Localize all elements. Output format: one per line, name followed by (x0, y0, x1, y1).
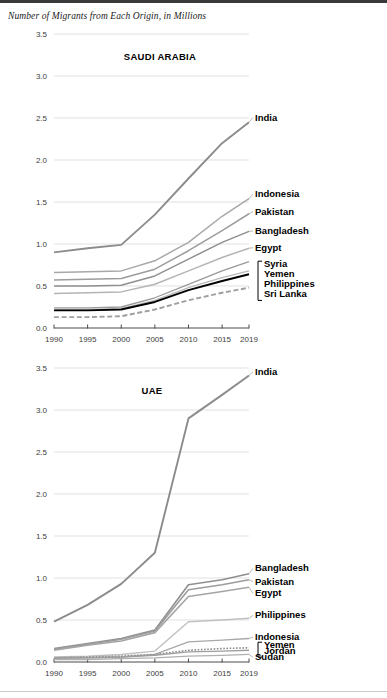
series-group (54, 376, 249, 660)
y-axis-tick-label: 2.5 (36, 448, 48, 457)
series-label-pakistan: Pakistan (255, 576, 294, 587)
y-axis-tick-label: 1.0 (36, 240, 48, 249)
x-axis-tick-label: 2015 (213, 335, 231, 344)
panel-title: UAE (142, 385, 163, 396)
series-label-egypt: Egypt (255, 242, 282, 253)
y-axis-tick-label: 2.0 (36, 156, 48, 165)
series-label-bangladesh: Bangladesh (255, 562, 309, 573)
figure-title: Number of Migrants from Each Origin, in … (8, 11, 206, 21)
series-label-sri-lanka: Sri Lanka (264, 288, 307, 299)
x-axis-tick-label: 2005 (146, 335, 164, 344)
y-axis-tick-label: 3.0 (36, 406, 48, 415)
x-axis-tick-label: 1995 (79, 669, 97, 678)
x-axis-tick-label: 2000 (112, 335, 130, 344)
x-axis-tick-label: 2015 (213, 669, 231, 678)
y-axis-tick-label: 1.5 (36, 198, 48, 207)
chart-canvas: 0.00.51.01.52.02.53.03.51990199520002005… (0, 362, 387, 692)
chart-uae: 0.00.51.01.52.02.53.03.51990199520002005… (0, 362, 387, 692)
series-label-philippines: Philippines (255, 609, 306, 620)
series-label-india: India (255, 366, 278, 377)
series-label-egypt: Egypt (255, 587, 282, 598)
series-line-pakistan (54, 580, 249, 650)
y-gridlines: 0.00.51.01.52.02.53.03.5 (36, 364, 249, 667)
y-axis-tick-label: 2.0 (36, 490, 48, 499)
series-line-indonesia (54, 199, 249, 273)
x-axis: 1990199520002005201020152019 (45, 659, 258, 679)
x-axis-tick-label: 2010 (180, 335, 198, 344)
y-axis-tick-label: 0.5 (36, 282, 48, 291)
bottom-divider-rule (0, 691, 387, 692)
x-axis-tick-label: 2019 (240, 335, 258, 344)
series-line-pakistan (54, 214, 249, 280)
series-label-sudan: Sudan (255, 651, 284, 662)
series-labels: IndiaBangladeshPakistanEgyptPhilippinesI… (249, 366, 309, 663)
y-axis-tick-label: 2.5 (36, 114, 48, 123)
series-labels: IndiaIndonesiaPakistanBangladeshEgyptSyr… (249, 112, 315, 299)
y-axis-tick-label: 3.0 (36, 72, 48, 81)
y-axis-tick-label: 3.5 (36, 30, 48, 39)
y-axis-tick-label: 0.0 (36, 324, 48, 333)
x-axis-tick-label: 2019 (240, 669, 258, 678)
x-axis-tick-label: 2005 (146, 669, 164, 678)
series-group (54, 122, 249, 317)
chart-saudi-arabia: 0.00.51.01.52.02.53.03.51990199520002005… (0, 28, 387, 358)
series-label-indonesia: Indonesia (255, 188, 300, 199)
series-label-bangladesh: Bangladesh (255, 225, 309, 236)
series-line-india (54, 122, 249, 252)
x-axis-tick-label: 2000 (112, 669, 130, 678)
chart-canvas: 0.00.51.01.52.02.53.03.51990199520002005… (0, 28, 387, 358)
y-axis-tick-label: 1.5 (36, 532, 48, 541)
x-axis-tick-label: 1995 (79, 335, 97, 344)
x-axis-tick-label: 1990 (45, 335, 63, 344)
series-label-pakistan: Pakistan (255, 206, 294, 217)
y-axis-tick-label: 0.0 (36, 658, 48, 667)
series-label-india: India (255, 112, 278, 123)
panel-title: SAUDI ARABIA (124, 51, 196, 62)
series-line-yemen (54, 648, 249, 658)
y-axis-tick-label: 3.5 (36, 364, 48, 373)
y-axis-tick-label: 0.5 (36, 616, 48, 625)
x-axis-tick-label: 2010 (180, 669, 198, 678)
x-axis-tick-label: 1990 (45, 669, 63, 678)
top-divider-rule (0, 0, 387, 3)
series-group-bracket (258, 261, 262, 300)
y-axis-tick-label: 1.0 (36, 574, 48, 583)
x-axis: 1990199520002005201020152019 (45, 325, 258, 345)
